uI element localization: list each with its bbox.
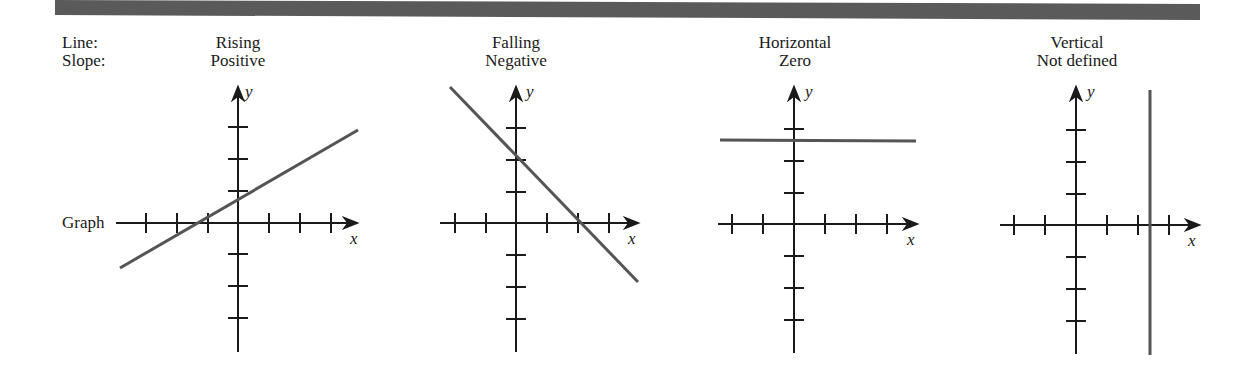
y-axis-label: y xyxy=(803,82,813,101)
panel-1-graph xyxy=(116,88,358,352)
horizontal-line xyxy=(720,140,916,141)
y-axis-label: y xyxy=(1085,82,1095,101)
panel-2-graph xyxy=(440,87,638,352)
x-axis-label: x xyxy=(349,229,358,248)
y-axis-label: y xyxy=(524,82,534,101)
x-axis-label: x xyxy=(627,229,636,248)
graphs-canvas: y x y x y x y x xyxy=(0,0,1247,376)
falling-line xyxy=(450,87,638,282)
x-axis-label: x xyxy=(906,230,915,249)
panel-4-graph xyxy=(1000,88,1198,355)
panel-3-graph xyxy=(718,88,916,353)
y-axis-label: y xyxy=(243,82,253,101)
x-axis-label: x xyxy=(1187,231,1196,250)
